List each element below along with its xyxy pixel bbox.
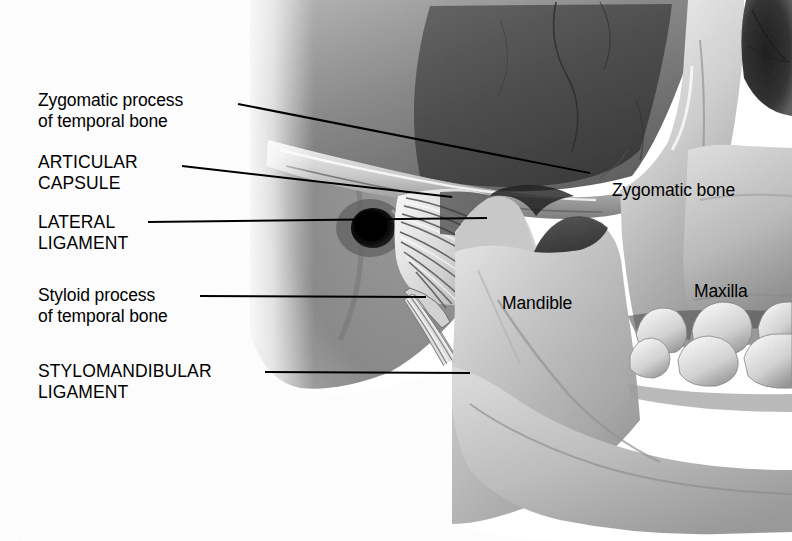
label-stylomandibular-ligament: STYLOMANDIBULAR LIGAMENT	[38, 361, 212, 402]
anatomical-figure: Zygomatic process of temporal bone ARTIC…	[0, 0, 792, 541]
bottom-left-white	[244, 360, 452, 541]
left-white-panel	[0, 0, 250, 541]
label-mandible: Mandible	[502, 293, 572, 314]
label-zygomatic-bone: Zygomatic bone	[612, 180, 735, 201]
label-lateral-ligament: LATERAL LIGAMENT	[38, 212, 128, 253]
skull-lateral-illustration	[0, 0, 792, 541]
label-styloid-process: Styloid process of temporal bone	[38, 285, 168, 326]
orbital-margin	[741, 0, 792, 116]
label-zygomatic-process: Zygomatic process of temporal bone	[38, 90, 183, 131]
label-maxilla: Maxilla	[694, 281, 748, 302]
label-articular-capsule: ARTICULAR CAPSULE	[38, 152, 138, 193]
lower-molars	[630, 334, 792, 388]
